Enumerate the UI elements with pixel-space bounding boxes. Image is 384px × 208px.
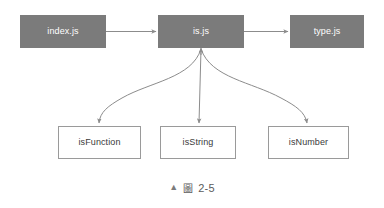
node-label: isFunction — [78, 138, 120, 147]
node-export-isstring[interactable]: isString — [160, 126, 236, 159]
caption-label-text: 圖 — [183, 180, 193, 195]
figure-caption: ▲ 圖 2-5 — [0, 180, 384, 195]
connector-is-to-isstring — [199, 49, 201, 123]
figure-diagram: index.js is.js type.js isFunction isStri… — [0, 0, 384, 208]
node-module-is-js[interactable]: is.js — [158, 15, 244, 48]
node-module-index-js[interactable]: index.js — [20, 15, 106, 48]
node-label: is.js — [193, 27, 209, 36]
node-label: isNumber — [289, 138, 328, 147]
triangle-marker-icon: ▲ — [169, 183, 178, 192]
connector-is-to-isfunction — [99, 49, 201, 123]
node-label: isString — [183, 138, 214, 147]
node-label: type.js — [314, 27, 341, 36]
node-export-isnumber[interactable]: isNumber — [268, 126, 349, 159]
connector-is-to-isnumber — [201, 49, 307, 123]
node-label: index.js — [47, 27, 78, 36]
caption-figure-number: 2-5 — [198, 182, 215, 194]
node-export-isfunction[interactable]: isFunction — [58, 126, 141, 159]
node-module-type-js[interactable]: type.js — [290, 15, 364, 48]
